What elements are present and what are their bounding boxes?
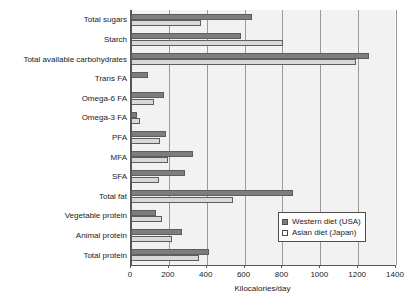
category-label: Animal protein	[0, 231, 127, 240]
legend-swatch-icon	[282, 230, 288, 236]
category-label: Starch	[0, 35, 127, 44]
x-tick-label: 600	[237, 270, 250, 279]
bar	[131, 151, 193, 157]
bar	[131, 177, 159, 183]
bar	[131, 190, 293, 196]
category-label: Vegetable protein	[0, 211, 127, 220]
category-label: Total fat	[0, 192, 127, 201]
legend-item-label: Asian diet (Japan)	[292, 228, 356, 237]
category-label: MFA	[0, 153, 127, 162]
gridline	[169, 10, 170, 265]
bar	[131, 157, 168, 163]
x-axis-title: Kilocalories/day	[130, 284, 395, 293]
gridline	[207, 10, 208, 265]
bar	[131, 59, 356, 65]
category-label: PFA	[0, 133, 127, 142]
bar	[131, 33, 241, 39]
bar	[131, 236, 172, 242]
x-tick-mark	[281, 265, 282, 268]
category-label: Omega-3 FA	[0, 113, 127, 122]
legend-swatch-icon	[282, 219, 288, 225]
bar	[131, 99, 154, 105]
x-tick-mark	[168, 265, 169, 268]
category-label: Total sugars	[0, 15, 127, 24]
category-label: Omega-6 FA	[0, 94, 127, 103]
bar	[131, 216, 162, 222]
x-tick-label: 1200	[348, 270, 366, 279]
chart-legend: Western diet (USA) Asian diet (Japan)	[278, 212, 366, 242]
x-tick-mark	[357, 265, 358, 268]
category-label: Trans FA	[0, 74, 127, 83]
x-tick-label: 400	[199, 270, 212, 279]
bar	[131, 112, 137, 118]
x-tick-label: 0	[128, 270, 132, 279]
category-label: Total protein	[0, 251, 127, 260]
bar	[131, 40, 283, 46]
gridline	[245, 10, 246, 265]
x-tick-mark	[130, 265, 131, 268]
bar	[131, 138, 160, 144]
x-axis-line	[130, 265, 395, 266]
bar	[131, 53, 369, 59]
x-tick-mark	[244, 265, 245, 268]
x-tick-mark	[206, 265, 207, 268]
x-tick-label: 1400	[386, 270, 404, 279]
gridline	[396, 10, 397, 265]
legend-item-asian-diet: Asian diet (Japan)	[282, 227, 361, 238]
bar	[131, 72, 148, 78]
x-tick-label: 800	[275, 270, 288, 279]
x-tick-mark	[319, 265, 320, 268]
category-label: Total available carbohydrates	[0, 55, 127, 64]
bar	[131, 92, 164, 98]
bar	[131, 131, 166, 137]
bar	[131, 20, 201, 26]
bar	[131, 118, 140, 124]
bar	[131, 255, 199, 261]
x-tick-label: 1000	[310, 270, 328, 279]
bar	[131, 197, 233, 203]
category-axis-labels: Total sugarsStarchTotal available carboh…	[0, 10, 127, 265]
x-tick-label: 200	[161, 270, 174, 279]
bar	[131, 229, 182, 235]
bar	[131, 170, 185, 176]
legend-item-label: Western diet (USA)	[292, 217, 361, 226]
x-tick-mark	[395, 265, 396, 268]
bar	[131, 210, 156, 216]
legend-item-western-diet: Western diet (USA)	[282, 216, 361, 227]
bar-chart-figure: Total sugarsStarchTotal available carboh…	[0, 0, 411, 303]
bar	[131, 249, 209, 255]
bar	[131, 14, 252, 20]
category-label: SFA	[0, 172, 127, 181]
